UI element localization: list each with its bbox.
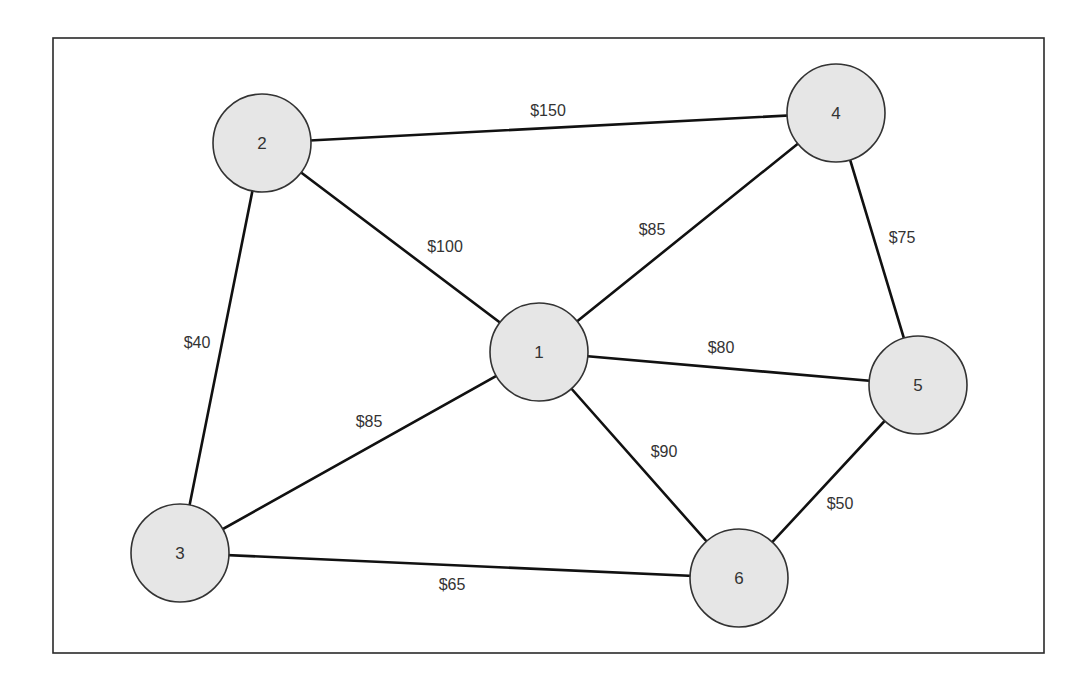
node-label-2: 2 (257, 134, 266, 153)
node-5: 5 (869, 336, 967, 434)
edge-cost-label-2-4: $150 (530, 102, 566, 119)
edge-1-4 (539, 113, 836, 352)
edge-cost-label-1-3: $85 (356, 413, 383, 430)
edge-1-3 (180, 352, 539, 553)
nodes-layer: 123456 (131, 64, 967, 627)
edge-cost-label-2-1: $100 (427, 238, 463, 255)
node-label-3: 3 (175, 544, 184, 563)
node-6: 6 (690, 529, 788, 627)
edge-2-1 (262, 143, 539, 352)
node-label-4: 4 (831, 104, 840, 123)
edge-cost-label-3-6: $65 (439, 576, 466, 593)
node-4: 4 (787, 64, 885, 162)
edge-3-6 (180, 553, 739, 578)
node-3: 3 (131, 504, 229, 602)
network-graph-diagram: $150$100$40$85$75$80$85$90$50$65 123456 (0, 0, 1089, 690)
node-label-1: 1 (534, 343, 543, 362)
edge-1-5 (539, 352, 918, 385)
edge-cost-label-1-4: $85 (639, 221, 666, 238)
edge-cost-label-2-3: $40 (184, 334, 211, 351)
edge-cost-label-1-5: $80 (708, 339, 735, 356)
node-label-5: 5 (913, 376, 922, 395)
edge-cost-label-5-6: $50 (827, 495, 854, 512)
edge-cost-label-1-6: $90 (651, 443, 678, 460)
node-1: 1 (490, 303, 588, 401)
node-2: 2 (213, 94, 311, 192)
node-label-6: 6 (734, 569, 743, 588)
edge-cost-label-4-5: $75 (889, 229, 916, 246)
